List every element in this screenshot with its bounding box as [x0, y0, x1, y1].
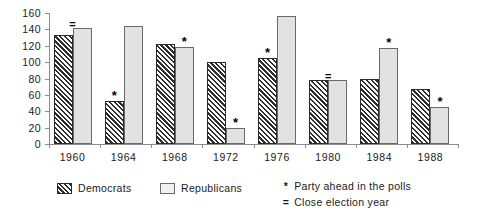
annotation-marker-1984: * — [386, 36, 391, 49]
bar-democrats-1980 — [309, 80, 328, 144]
bar-group-1980: = — [309, 13, 347, 144]
legend-item-republicans: Republicans — [160, 182, 242, 194]
bar-republicans-1980 — [328, 80, 347, 144]
legend-label-republicans: Republicans — [181, 182, 242, 194]
republicans-swatch-icon — [160, 183, 175, 194]
bar-group-1984: * — [360, 13, 398, 144]
note-party-ahead-text: Party ahead in the polls — [294, 180, 411, 192]
bar-democrats-1964 — [105, 101, 124, 144]
annotation-marker-1988: * — [437, 95, 442, 108]
bar-democrats-1976 — [258, 58, 277, 144]
bar-democrats-1984 — [360, 79, 379, 144]
x-axis-label-1972: 1972 — [213, 151, 239, 163]
y-axis-tick — [45, 13, 50, 14]
bar-group-1988: * — [411, 13, 449, 144]
plot-area: =****=** — [49, 13, 458, 144]
bar-democrats-1968 — [156, 44, 175, 144]
y-axis-tick-label: 120 — [0, 41, 41, 52]
bar-group-1964: * — [105, 13, 143, 144]
x-axis-tick — [49, 144, 50, 148]
y-axis-tick — [45, 95, 50, 96]
x-axis-label-1984: 1984 — [366, 151, 392, 163]
y-axis-tick — [45, 46, 50, 47]
y-axis-tick — [45, 29, 50, 30]
y-axis-tick-label: 40 — [0, 106, 41, 117]
bar-group-1968: * — [156, 13, 194, 144]
bar-democrats-1988 — [411, 89, 430, 144]
y-axis-tick-label: 140 — [0, 24, 41, 35]
bar-republicans-1968 — [175, 47, 194, 144]
equals-icon: = — [281, 196, 291, 208]
x-axis-tick — [407, 144, 408, 148]
annotation-marker-1964: * — [112, 89, 117, 102]
x-axis-tick — [458, 144, 459, 148]
bar-group-1976: * — [258, 13, 296, 144]
note-close-election-text: Close election year — [294, 196, 389, 208]
bar-group-1960: = — [54, 13, 92, 144]
annotation-marker-1980: = — [325, 71, 331, 82]
y-axis-tick-label: 20 — [0, 122, 41, 133]
x-axis-label-1960: 1960 — [60, 151, 86, 163]
y-axis-tick — [45, 128, 50, 129]
annotation-marker-1976: * — [265, 46, 270, 59]
legend-item-democrats: Democrats — [57, 182, 131, 194]
annotation-marker-1972: * — [233, 116, 238, 129]
bar-group-1972: * — [207, 13, 245, 144]
x-axis-label-1968: 1968 — [162, 151, 188, 163]
x-axis-tick — [100, 144, 101, 148]
bar-republicans-1976 — [277, 16, 296, 144]
y-axis-tick — [45, 62, 50, 63]
x-axis-tick — [202, 144, 203, 148]
x-axis-label-1976: 1976 — [264, 151, 290, 163]
x-axis-tick — [254, 144, 255, 148]
y-axis-tick — [45, 111, 50, 112]
legend-label-democrats: Democrats — [78, 182, 131, 194]
bar-republicans-1960 — [73, 28, 92, 144]
democrats-swatch-icon — [57, 183, 72, 194]
bar-republicans-1984 — [379, 48, 398, 144]
note-close-election: = Close election year — [281, 196, 389, 208]
bar-chart: =****=** 020406080100120140160 196019641… — [0, 0, 478, 213]
annotation-marker-1968: * — [182, 35, 187, 48]
x-axis-label-1980: 1980 — [315, 151, 341, 163]
x-axis-label-1964: 1964 — [111, 151, 137, 163]
x-axis-tick — [305, 144, 306, 148]
y-axis-tick-label: 80 — [0, 73, 41, 84]
note-party-ahead: * Party ahead in the polls — [281, 180, 411, 192]
asterisk-icon: * — [281, 180, 291, 192]
y-axis-tick-label: 60 — [0, 90, 41, 101]
chart-legend: Democrats Republicans * Party ahead in t… — [0, 176, 478, 213]
annotation-marker-1960: = — [69, 19, 75, 30]
y-axis-tick-label: 100 — [0, 57, 41, 68]
y-axis-tick-label: 160 — [0, 8, 41, 19]
bar-republicans-1964 — [124, 26, 143, 144]
y-axis-tick — [45, 79, 50, 80]
x-axis-tick — [356, 144, 357, 148]
y-axis-tick-label: 0 — [0, 139, 41, 150]
bar-democrats-1972 — [207, 62, 226, 144]
bar-republicans-1972 — [226, 128, 245, 144]
bar-republicans-1988 — [430, 107, 449, 144]
bar-democrats-1960 — [54, 35, 73, 144]
x-axis-tick — [151, 144, 152, 148]
x-axis-label-1988: 1988 — [418, 151, 444, 163]
